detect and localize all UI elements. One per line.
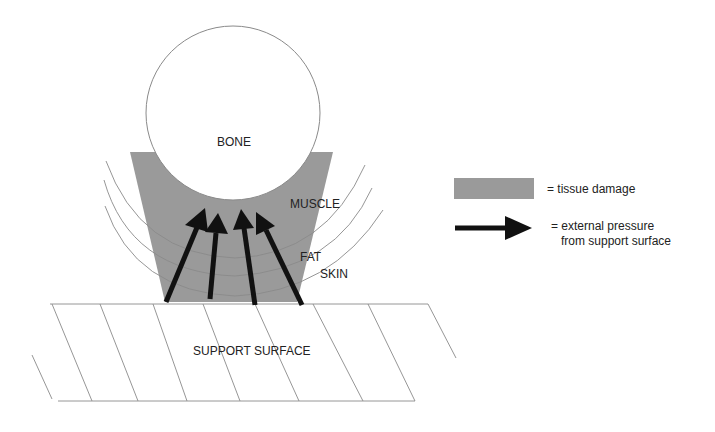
skin-label: SKIN [320, 267, 348, 281]
bone-label: BONE [217, 135, 251, 149]
legend-pressure-text-line1: = external pressure [551, 219, 654, 233]
support-surface-label: SUPPORT SURFACE [193, 344, 311, 358]
fat-label: FAT [300, 250, 321, 264]
legend-tissue-damage-swatch [454, 178, 534, 199]
legend-arrow-icon [455, 216, 532, 240]
legend-pressure-text-line2: from support surface [561, 234, 671, 248]
legend-tissue-damage-text: = tissue damage [547, 182, 635, 196]
pressure-ulcer-diagram [0, 0, 715, 432]
muscle-label: MUSCLE [290, 197, 340, 211]
bone-circle [146, 26, 320, 200]
